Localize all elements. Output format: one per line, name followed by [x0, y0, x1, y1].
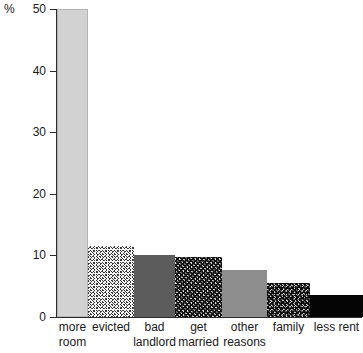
x-label-less-rent: less rent	[297, 320, 363, 335]
y-tick-label-wrap: 40	[14, 71, 46, 83]
y-tick-label-wrap: 20	[14, 194, 46, 206]
x-label-line: reasons	[205, 335, 285, 350]
y-tick-mark	[50, 255, 57, 256]
bar-bad-landlord	[134, 255, 175, 317]
y-tick-mark	[50, 194, 57, 195]
bar-evicted	[88, 246, 134, 317]
x-axis-line	[56, 317, 362, 318]
plot-area	[57, 9, 363, 317]
y-tick-label: 30	[14, 126, 46, 138]
bar-family	[267, 283, 310, 317]
y-tick-label: 40	[14, 65, 46, 77]
y-tick-mark	[50, 71, 57, 72]
bar-less-rent	[310, 295, 363, 317]
bar-get-married	[175, 257, 222, 317]
x-axis-labels: moreroomevictedbadlandlordgetmarriedothe…	[57, 320, 363, 353]
y-tick-label-wrap: 50	[14, 9, 46, 21]
y-tick-label: 10	[14, 249, 46, 261]
y-tick-label: 20	[14, 188, 46, 200]
bar-chart: % 01020304050 moreroomevictedbadlandlord…	[0, 0, 363, 353]
y-tick-label-wrap: 30	[14, 132, 46, 144]
y-tick-label-wrap: 10	[14, 255, 46, 267]
y-tick-mark	[50, 9, 57, 10]
x-label-line: room	[33, 335, 113, 350]
x-label-line: less rent	[297, 320, 363, 335]
y-tick-mark	[50, 317, 57, 318]
y-tick-mark	[50, 132, 57, 133]
bar-other-reasons	[222, 270, 267, 317]
y-tick-label: 50	[14, 3, 46, 15]
bar-more-room	[57, 9, 88, 317]
